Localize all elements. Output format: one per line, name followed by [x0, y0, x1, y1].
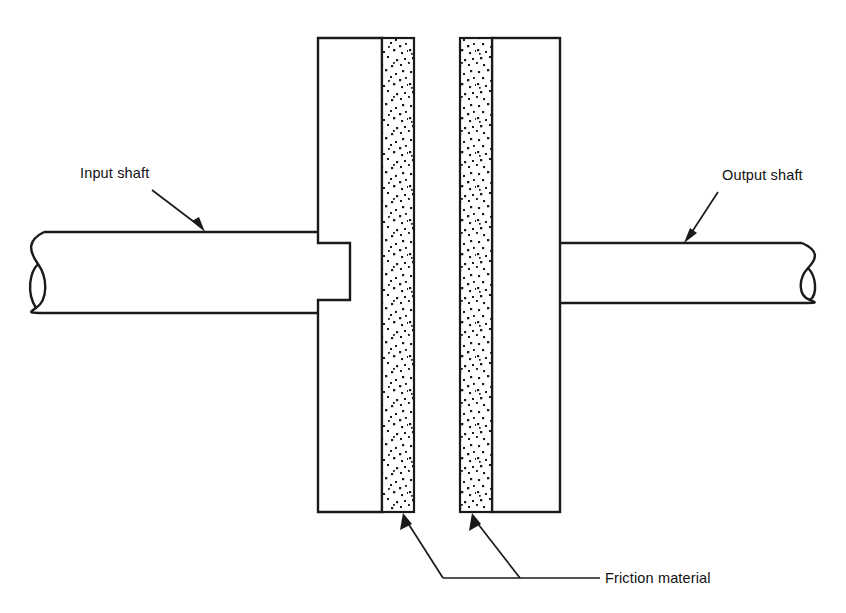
clutch-diagram-root: Input shaft Output shaft Friction materi… [0, 0, 846, 613]
annotation-output-shaft: Output shaft [684, 167, 803, 243]
output-shaft-label: Output shaft [722, 167, 803, 183]
input-shaft-body [44, 232, 320, 313]
friction-band-left [382, 38, 414, 512]
annotation-friction-material: Friction material [400, 513, 711, 586]
friction-leader-right-diagonal [475, 520, 520, 578]
friction-right-arrowhead [469, 513, 481, 531]
friction-band-right [460, 38, 492, 512]
output-shaft-body [560, 243, 802, 303]
friction-material-label: Friction material [605, 570, 711, 586]
output-shaft-assembly [560, 243, 815, 303]
input-shaft-label: Input shaft [80, 165, 149, 181]
input-shaft-arrowhead [192, 217, 205, 232]
input-shaft-break-line-inner [30, 264, 38, 308]
input-shaft-assembly [30, 232, 320, 313]
clutch-cross-section-figure: Input shaft Output shaft Friction materi… [0, 0, 846, 613]
driving-plate-assembly [318, 38, 414, 512]
output-shaft-break-line-inner [808, 268, 815, 300]
annotation-input-shaft: Input shaft [80, 165, 205, 232]
friction-leader-left-diagonal [406, 520, 443, 578]
output-shaft-arrowhead [684, 228, 697, 243]
driving-plate-body [318, 38, 382, 512]
driven-plate-assembly [460, 38, 560, 512]
driven-plate-body [492, 38, 560, 512]
